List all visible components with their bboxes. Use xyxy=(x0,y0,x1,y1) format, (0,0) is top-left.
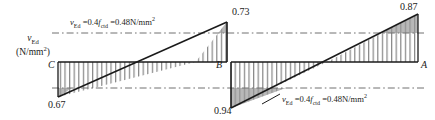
annot-top-var-sub: Ed xyxy=(74,23,81,29)
annot-bot-eq1: =0.4 xyxy=(293,94,311,104)
value-a-top: 0.87 xyxy=(400,1,418,12)
value-b-top: 0.73 xyxy=(232,6,250,17)
limit-annotation-top: vEd =0.4fctd =0.48N/mm2 xyxy=(70,16,155,29)
y-axis-unit: (N/mm xyxy=(16,47,43,57)
shear-stress-diagram: vEd (N/mm2) C B A 0.73 0.87 0.67 0.94 vE… xyxy=(0,0,435,120)
value-c-bottom: 0.67 xyxy=(48,99,66,110)
annot-top-eq2: =0.48N/mm xyxy=(108,17,152,27)
node-c: C xyxy=(48,59,55,70)
annot-bot-sup: 2 xyxy=(364,93,367,99)
y-axis-unit-close: ) xyxy=(47,47,50,57)
annot-top-eq1: =0.4 xyxy=(81,17,99,27)
value-b-bottom: 0.94 xyxy=(214,105,232,116)
node-b: B xyxy=(216,59,222,70)
y-axis-label: vEd (N/mm2) xyxy=(6,33,60,58)
span-cb-positive-area xyxy=(196,22,228,62)
annot-bot-f-sub: ctd xyxy=(313,100,320,106)
limit-annotation-bottom: vEd =0.4fctd =0.48N/mm2 xyxy=(282,93,367,106)
y-axis-symbol-sub: Ed xyxy=(31,38,38,45)
annot-top-sup: 2 xyxy=(152,16,155,22)
annot-bot-var-sub: Ed xyxy=(286,100,293,106)
annot-bot-eq2: =0.48N/mm xyxy=(320,94,364,104)
annot-top-f-sub: ctd xyxy=(101,23,108,29)
node-a: A xyxy=(421,59,427,70)
